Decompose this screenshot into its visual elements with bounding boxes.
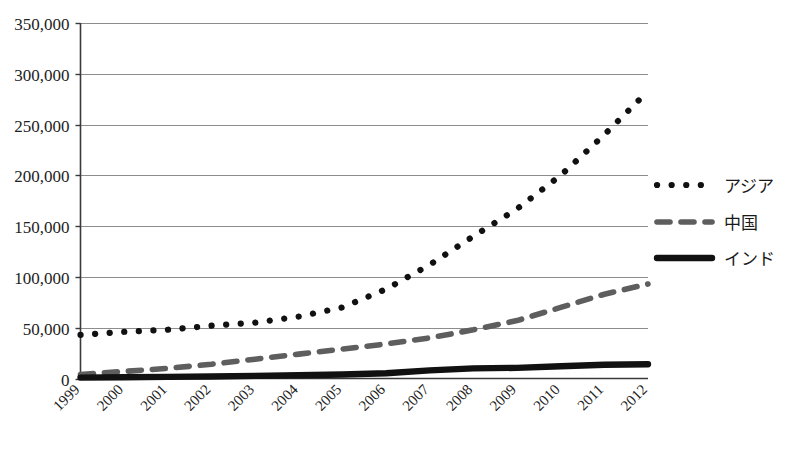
y-axis-tick-label: 350,000 (14, 15, 69, 34)
y-axis-tick-label: 150,000 (14, 218, 69, 237)
x-axis-tick-label: 2007 (399, 381, 432, 414)
legend-label-asia: アジア (724, 177, 774, 196)
legend-label-india: インド (724, 250, 775, 269)
x-axis-tick-label: 2011 (574, 381, 606, 413)
x-axis-tick-label: 2012 (618, 381, 651, 414)
x-axis-tick-label: 2002 (181, 381, 214, 414)
x-axis-labels-group: 1999200020012002200320042005200620072008… (50, 381, 650, 414)
y-axis-tick-label: 50,000 (23, 320, 70, 339)
x-axis-tick-label: 2009 (487, 381, 520, 414)
y-axis-tick-label: 250,000 (14, 117, 69, 136)
x-axis-tick-label: 2004 (268, 381, 301, 414)
x-axis-tick-label: 2008 (443, 381, 476, 414)
series-line-asia (81, 91, 649, 335)
y-axis-tick-label: 200,000 (14, 167, 69, 186)
line-chart: 050,000100,000150,000200,000250,000300,0… (0, 0, 790, 451)
y-axis-tick-label: 100,000 (14, 269, 69, 288)
y-axis-labels-group: 050,000100,000150,000200,000250,000300,0… (14, 15, 69, 390)
x-axis-tick-label: 1999 (50, 381, 83, 414)
x-axis-tick-label: 2006 (356, 381, 389, 414)
x-axis-tick-label: 2005 (312, 381, 345, 414)
x-axis-tick-label: 2003 (225, 381, 258, 414)
chart-container: 050,000100,000150,000200,000250,000300,0… (0, 0, 790, 451)
chart-legend: アジア 中国 インド (657, 177, 775, 269)
y-axis-tick-label: 300,000 (14, 66, 69, 85)
x-axis-tick-label: 2001 (137, 381, 170, 414)
x-axis-tick-label: 2000 (94, 381, 127, 414)
gridlines-group (81, 24, 649, 329)
legend-label-china: 中国 (724, 214, 758, 233)
x-axis-tick-label: 2010 (530, 381, 563, 414)
